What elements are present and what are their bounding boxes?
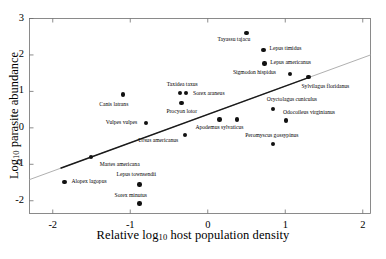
data-point[interactable]: [62, 180, 66, 184]
y-axis-title-suffix: parasite abundance: [7, 52, 21, 151]
point-label: Peromyscus gossypinus: [245, 133, 298, 139]
data-point[interactable]: [261, 48, 265, 52]
point-label: Lepus timidus: [270, 46, 302, 52]
point-label: Ursus americanus: [138, 138, 178, 144]
point-label: Sylvilagus floridanus: [302, 84, 350, 90]
data-point[interactable]: [235, 117, 239, 121]
data-point[interactable]: [178, 91, 182, 95]
x-axis-title: Relative log10 host population density: [0, 228, 386, 243]
data-point[interactable]: [137, 201, 141, 205]
data-point[interactable]: [121, 92, 125, 96]
data-point[interactable]: [306, 75, 310, 79]
x-axis-title-suffix: host population density: [167, 228, 289, 242]
x-axis-title-subscript: 10: [159, 232, 168, 242]
point-label: Sorex araneus: [193, 91, 225, 97]
data-point[interactable]: [262, 61, 266, 65]
scatter-plot-figure: -2-1012-2-10123 Tayassu tajacuLepus timi…: [0, 0, 386, 259]
data-point[interactable]: [137, 182, 141, 186]
point-label: Lepus townsendii: [117, 172, 157, 178]
point-label: Oryctolagus cuniculus: [267, 97, 317, 103]
data-point[interactable]: [217, 117, 221, 121]
y-axis-title: Log10 parasite abundance: [7, 16, 22, 216]
point-label: Vulpes vulpes: [106, 120, 138, 126]
data-point[interactable]: [244, 31, 248, 35]
y-axis-title-prefix: Log: [7, 159, 21, 179]
trend-line: [30, 55, 371, 180]
data-point[interactable]: [271, 107, 275, 111]
point-label: Tayassu tajacu: [218, 37, 251, 43]
point-label: Sigmodon hispidus: [233, 70, 276, 76]
point-label: Odocoileus virginianus: [283, 110, 335, 116]
data-point[interactable]: [284, 118, 288, 122]
point-label: Alopex lagopus: [71, 179, 106, 185]
data-point[interactable]: [89, 155, 93, 159]
point-label: Lepus americanus: [270, 60, 311, 66]
point-label: Martes americana: [100, 162, 140, 168]
y-axis-title-subscript: 10: [11, 150, 21, 159]
point-label: Sorex minutus: [115, 193, 147, 199]
data-point[interactable]: [179, 101, 183, 105]
point-label: Apodemus sylvaticus: [195, 125, 243, 131]
point-label: Procyon lotor: [166, 109, 197, 115]
point-label: Taxidea taxus: [167, 82, 198, 88]
point-label: Canis latrans: [99, 102, 128, 108]
x-axis-title-prefix: Relative log: [97, 228, 159, 242]
